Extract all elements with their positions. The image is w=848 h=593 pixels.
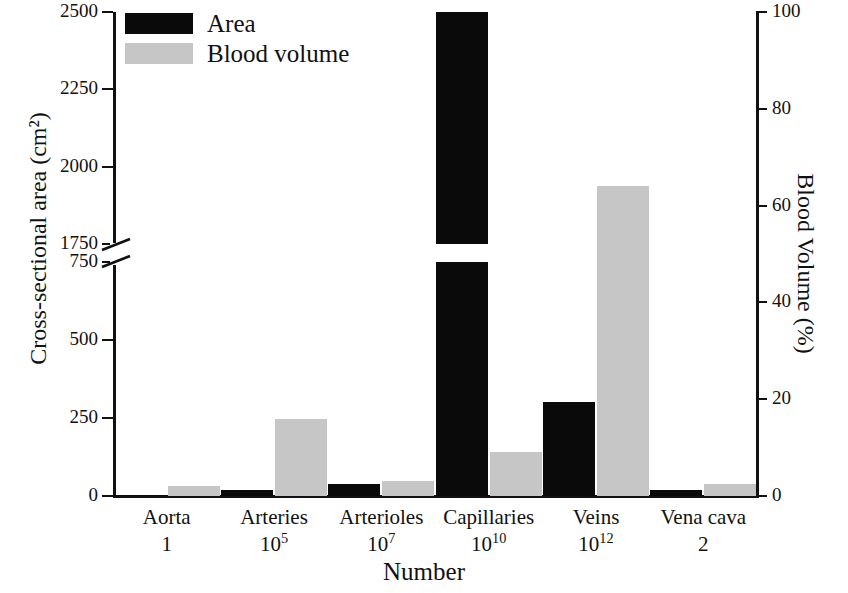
bar-area-aorta [114, 495, 166, 496]
right-axis-tick-label: 80 [772, 98, 791, 117]
chart-legend: Area Blood volume [125, 8, 349, 68]
category-number: 105 [214, 532, 334, 556]
x-axis-category-vena-cava: Vena cava2 [643, 505, 763, 556]
bar-blood-volume-aorta [168, 486, 220, 496]
category-number: 107 [321, 532, 441, 556]
left-axis-tick-label: 2500 [20, 1, 98, 20]
bar-blood-volume-vena-cava [704, 484, 756, 496]
bar-area-capillaries-lower [436, 262, 488, 496]
legend-label-area: Area [207, 11, 256, 36]
category-name: Arterioles [321, 505, 441, 529]
x-axis-category-arteries: Arteries105 [214, 505, 334, 556]
legend-item-area: Area [125, 8, 349, 38]
left-axis-tick [102, 88, 113, 90]
left-axis-tick [102, 417, 113, 419]
x-axis-category-veins: Veins1012 [536, 505, 656, 556]
left-axis-tick [102, 339, 113, 341]
x-axis-category-arterioles: Arterioles107 [321, 505, 441, 556]
left-axis-tick [102, 495, 113, 497]
right-axis-tick-label: 60 [772, 195, 791, 214]
bar-area-arterioles [328, 484, 380, 496]
category-number: 1010 [429, 532, 549, 556]
bar-blood-volume-capillaries [490, 452, 542, 496]
bar-blood-volume-arterioles [382, 481, 434, 496]
legend-label-blood-volume: Blood volume [207, 41, 349, 66]
category-name: Capillaries [429, 505, 549, 529]
category-number: 1 [107, 532, 227, 556]
bar-area-capillaries-upper [436, 12, 488, 244]
bar-area-vena-cava [650, 490, 702, 496]
right-axis-title: Blood Volume (%) [792, 99, 819, 429]
x-axis-title: Number [0, 558, 848, 586]
left-axis-tick [102, 166, 113, 168]
left-axis-title-text: Cross-sectional area (cm²) [25, 112, 51, 364]
right-axis-tick-label: 100 [772, 1, 801, 20]
category-name: Veins [536, 505, 656, 529]
right-axis-tick-label: 40 [772, 291, 791, 310]
category-name: Aorta [107, 505, 227, 529]
bar-area-arteries [221, 490, 273, 496]
bar-blood-volume-veins [597, 186, 649, 496]
right-axis-tick-label: 0 [772, 485, 782, 504]
category-name: Arteries [214, 505, 334, 529]
right-axis-tick-label: 20 [772, 388, 791, 407]
x-axis-category-capillaries: Capillaries1010 [429, 505, 549, 556]
legend-swatch-area-icon [125, 13, 193, 34]
bar-blood-volume-arteries [275, 419, 327, 496]
x-axis-category-labels: Aorta1Arteries105Arterioles107Capillarie… [113, 505, 758, 555]
left-axis-tick [102, 11, 113, 13]
x-axis-title-text: Number [383, 558, 465, 585]
category-number: 2 [643, 532, 763, 556]
left-axis-title: Cross-sectional area (cm²) [25, 29, 52, 449]
bars-layer [113, 12, 758, 497]
right-axis-title-text: Blood Volume (%) [793, 173, 819, 353]
x-axis-category-aorta: Aorta1 [107, 505, 227, 556]
category-name: Vena cava [643, 505, 763, 529]
legend-swatch-blood-volume-icon [125, 43, 193, 64]
bar-area-veins [543, 402, 595, 496]
category-number: 1012 [536, 532, 656, 556]
legend-item-blood-volume: Blood volume [125, 38, 349, 68]
left-axis-tick-label: 0 [20, 485, 98, 504]
chart-figure: 02505007501750200022502500 020406080100 … [0, 0, 848, 593]
